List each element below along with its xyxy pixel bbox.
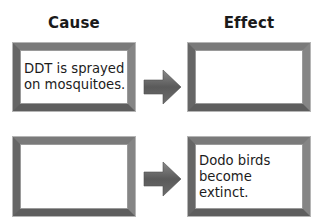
effect-box-1 <box>188 43 310 111</box>
cause-box-2 <box>13 137 135 216</box>
cause-text-2 <box>24 144 126 209</box>
effect-heading: Effect <box>188 14 310 32</box>
cause-text-1: DDT is sprayed on mosquitoes. <box>24 50 126 104</box>
right-arrow-icon <box>143 69 183 105</box>
cause-box-1: DDT is sprayed on mosquitoes. <box>13 43 135 111</box>
right-arrow-icon <box>143 161 183 197</box>
effect-box-2: Dodo birds become extinct. <box>188 137 310 216</box>
cause-heading: Cause <box>13 14 135 32</box>
effect-text-2: Dodo birds become extinct. <box>199 144 301 209</box>
effect-text-1 <box>199 50 301 104</box>
